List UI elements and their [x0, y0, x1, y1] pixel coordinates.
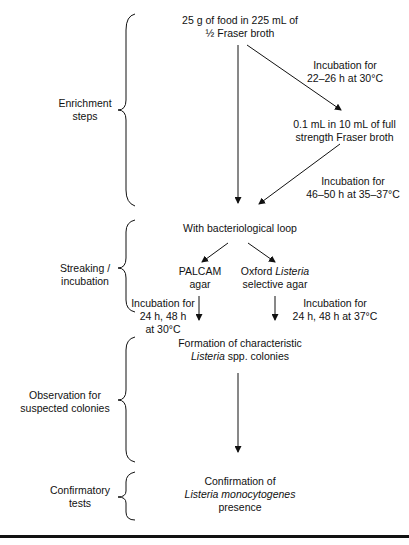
edge-label-start-to-full: Incubation for 22–26 h at 30°C	[295, 59, 395, 85]
edge-label-full-to-loop: Incubation for 46–50 h at 35–37°C	[298, 175, 408, 201]
phase-label-enrichment: Enrichment steps	[40, 97, 130, 123]
phase-label-streaking: Streaking / incubation	[40, 262, 130, 288]
edge-label-palcam-incubation: Incubation for 24 h, 48 h at 30°C	[128, 297, 198, 336]
bottom-rule	[0, 535, 409, 538]
edge-label-oxford-incubation: Incubation for 24 h, 48 h at 37°C	[280, 297, 390, 323]
brace-confirmatory	[118, 472, 135, 520]
phase-label-confirmatory: Confirmatory tests	[40, 484, 120, 510]
node-oxford: Oxford Listeria selective agar	[230, 265, 320, 291]
arrow-loop-to-palcam	[202, 243, 228, 262]
node-start: 25 g of food in 225 mL of ½ Fraser broth	[160, 14, 320, 40]
node-loop: With bacteriological loop	[170, 222, 310, 235]
arrow-loop-to-oxford	[248, 243, 275, 262]
node-palcam: PALCAM agar	[165, 265, 235, 291]
node-confirmation: Confirmation of Listeria monocytogenes p…	[170, 475, 310, 514]
node-full-fraser: 0.1 mL in 10 mL of full strength Fraser …	[280, 118, 409, 144]
brace-observation	[118, 337, 135, 462]
phase-label-observation: Observation for suspected colonies	[10, 389, 120, 415]
node-formation: Formation of characteristic Listeria spp…	[160, 337, 320, 363]
